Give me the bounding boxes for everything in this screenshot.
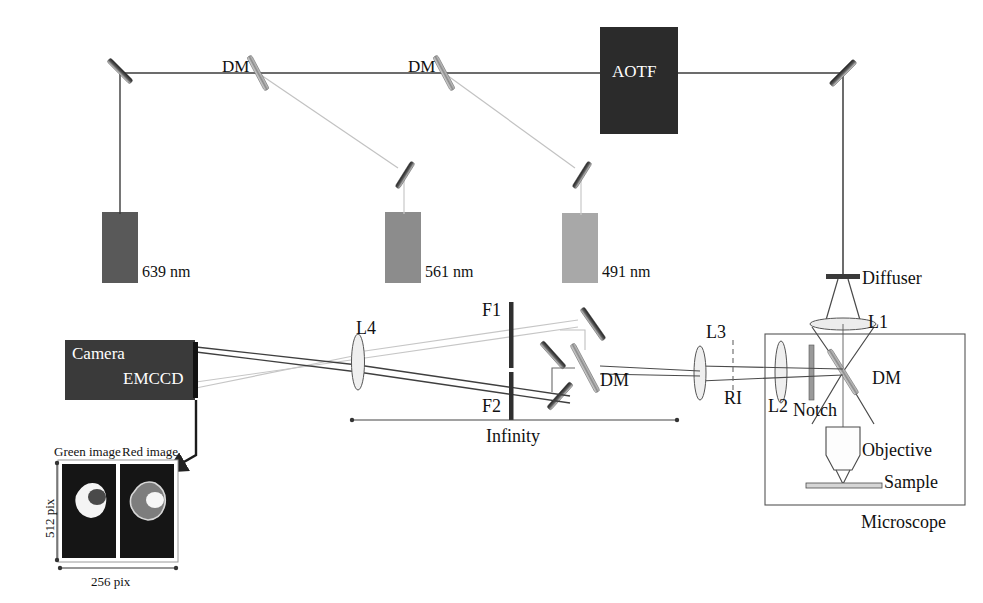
laser-box-491 bbox=[562, 213, 598, 283]
inset-height-label: 512 pix bbox=[42, 499, 58, 538]
laser-label-639: 639 nm bbox=[142, 263, 190, 281]
beam-diffuser-to-l1 bbox=[826, 279, 860, 320]
figure-canvas: AOTF DM DM 639 nm 561 nm 491 nm Camera E… bbox=[0, 0, 983, 603]
sample-label: Sample bbox=[884, 472, 938, 493]
infinity-label: Infinity bbox=[486, 426, 540, 447]
laser-box-561 bbox=[385, 212, 421, 283]
mirror-491-fold bbox=[572, 161, 592, 189]
lens-l2-label: L2 bbox=[768, 396, 788, 417]
sample-slide-icon bbox=[806, 483, 882, 488]
notch-filter-icon bbox=[809, 345, 814, 400]
green-image-label: Green image bbox=[54, 444, 121, 460]
ri-plane-label: RI bbox=[724, 388, 742, 409]
lens-l2-icon bbox=[775, 341, 787, 403]
lens-l4-icon bbox=[352, 334, 365, 390]
diffuser-icon bbox=[826, 274, 860, 279]
lens-l4-label: L4 bbox=[356, 318, 376, 339]
notch-filter-label: Notch bbox=[793, 400, 837, 421]
laser-label-491: 491 nm bbox=[602, 263, 650, 281]
laser-box-639 bbox=[102, 212, 138, 283]
inset-width-label: 256 pix bbox=[91, 574, 130, 590]
detection-dm-label: DM bbox=[600, 370, 629, 391]
dm-label-1: DM bbox=[222, 57, 249, 77]
red-image-label: Red image bbox=[122, 444, 178, 460]
splitter-fold-mirror-upper bbox=[580, 307, 606, 341]
laser-label-561: 561 nm bbox=[425, 263, 473, 281]
lens-l1-label: L1 bbox=[868, 312, 888, 333]
aotf-label: AOTF bbox=[612, 62, 656, 82]
mirror-561-fold bbox=[395, 161, 415, 189]
filter-f1-label: F1 bbox=[482, 300, 501, 321]
camera-label: Camera bbox=[72, 344, 125, 364]
filter-f2-label: F2 bbox=[482, 396, 501, 417]
objective-label: Objective bbox=[862, 440, 932, 461]
splitter-fold-mirror-lower-a bbox=[540, 341, 567, 370]
emccd-label: EMCCD bbox=[123, 369, 183, 389]
dm-label-2: DM bbox=[408, 57, 435, 77]
filter-f1-icon bbox=[509, 302, 514, 368]
beam-microscope-to-l3 bbox=[700, 366, 843, 381]
laser-branch-beams bbox=[258, 73, 581, 215]
lens-l3-icon bbox=[694, 346, 706, 400]
microscope-label: Microscope bbox=[861, 512, 946, 533]
lens-l3-label: L3 bbox=[706, 322, 726, 343]
objective-icon bbox=[826, 427, 860, 484]
microscope-dm-label: DM bbox=[872, 368, 901, 389]
diffuser-label: Diffuser bbox=[862, 268, 922, 289]
illumination-beam-path bbox=[120, 73, 843, 277]
filter-f2-icon bbox=[509, 372, 514, 420]
